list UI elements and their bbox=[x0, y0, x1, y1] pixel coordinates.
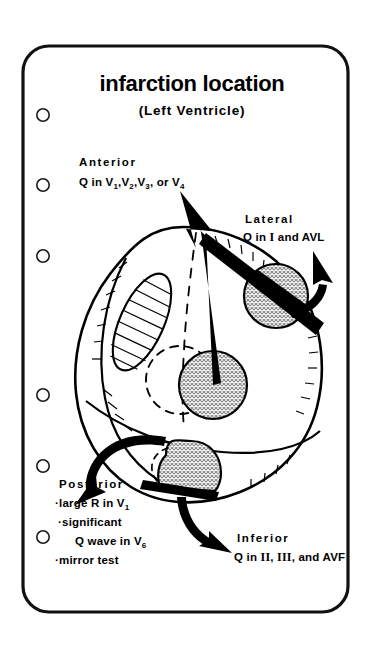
label-posterior-heading: Posterior bbox=[59, 478, 124, 490]
infarction-location-card: infarction location (Left Ventricle) bbox=[0, 0, 372, 645]
label-inferior-leads: Q in II, III, and AVF bbox=[234, 550, 345, 564]
binder-hole bbox=[37, 389, 49, 401]
label-lateral-leads: Q in I and AVL bbox=[243, 230, 325, 244]
label-anterior-heading: Anterior bbox=[79, 156, 137, 168]
page-subtitle: (Left Ventricle) bbox=[139, 103, 246, 118]
anterior-prefix: Q in bbox=[79, 176, 106, 188]
binder-hole bbox=[37, 460, 49, 472]
anterior-lead-4-sub: 4 bbox=[180, 182, 185, 191]
binder-hole bbox=[37, 179, 49, 191]
page-root: infarction location (Left Ventricle) bbox=[0, 0, 372, 645]
label-posterior-bullet-4: ·mirror test bbox=[55, 554, 119, 566]
binder-hole bbox=[37, 109, 49, 121]
label-inferior-heading: Inferior bbox=[237, 532, 289, 544]
binder-hole bbox=[37, 250, 49, 262]
binder-hole bbox=[37, 531, 49, 543]
label-posterior-bullet-2: ·significant bbox=[58, 516, 122, 528]
label-lateral-heading: Lateral bbox=[245, 213, 294, 225]
page-title: infarction location bbox=[100, 71, 285, 96]
